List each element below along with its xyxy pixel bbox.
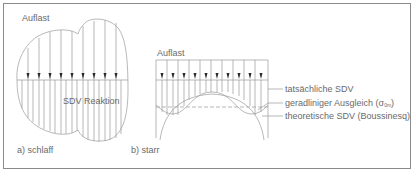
- reaction-label: SDV Reaktion: [63, 96, 120, 106]
- arrow-icon: [249, 73, 252, 79]
- arrow-icon: [216, 73, 219, 79]
- arrow-icon: [71, 73, 74, 79]
- arrow-icon: [205, 73, 208, 79]
- arrow-icon: [38, 73, 41, 79]
- arrow-icon: [161, 73, 164, 79]
- boussinesq-curve: [160, 94, 264, 140]
- flexible-foundation-diagram: [17, 19, 128, 142]
- left-load-label: Auflast: [22, 13, 50, 23]
- arrow-icon: [183, 73, 186, 79]
- right-caption: b) starr: [131, 145, 160, 155]
- arrow-icon: [27, 73, 30, 79]
- legend-actual-pressure: tatsächliche SDV: [285, 84, 354, 94]
- arrow-icon: [227, 73, 230, 79]
- right-load-arrows: [161, 73, 263, 79]
- legend-average-pressure: geradliniger Ausgleich (σ0m): [285, 98, 394, 110]
- right-load-label: Auflast: [157, 48, 185, 58]
- pressure-distribution-diagram: [0, 0, 416, 180]
- arrow-icon: [93, 73, 96, 79]
- arrow-icon: [49, 73, 52, 79]
- left-caption: a) schlaff: [17, 145, 53, 155]
- arrow-icon: [238, 73, 241, 79]
- arrow-icon: [194, 73, 197, 79]
- legend-boussinesq: theoretische SDV (Boussinesq): [285, 111, 410, 121]
- arrow-icon: [60, 73, 63, 79]
- rigid-foundation-diagram: [156, 60, 283, 140]
- arrow-icon: [115, 73, 118, 79]
- arrow-icon: [172, 73, 175, 79]
- left-load-arrows: [27, 73, 118, 79]
- arrow-icon: [82, 73, 85, 79]
- arrow-icon: [260, 73, 263, 79]
- arrow-icon: [104, 73, 107, 79]
